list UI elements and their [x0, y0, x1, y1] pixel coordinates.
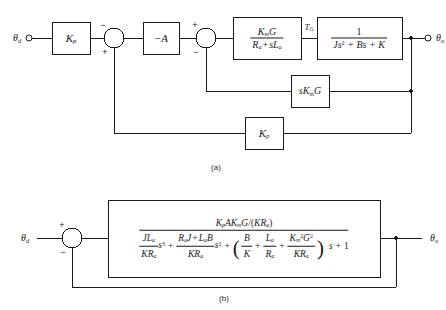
group-op-1: + [254, 242, 261, 252]
sum2-sign-top: + [192, 20, 197, 30]
sum1-sign-top: − [100, 20, 105, 30]
denominator-term-s3: JLa KRa s3 [139, 234, 165, 259]
sumb-sign-top: + [59, 220, 64, 230]
denominator-term-s2: RaJ+LaB KRa s2 [176, 234, 221, 259]
block-label-amplifier: −A [154, 33, 168, 44]
group-term-km2g2-over-kra: Km2G2 KRa [288, 234, 315, 259]
sum2-sign-bottom: − [193, 47, 198, 57]
denominator-constant: 1 [344, 242, 349, 252]
group-term-b-over-k: B K [242, 234, 252, 259]
denominator-term-s1-group: ( B K + La Ra + Km2G2 [233, 234, 324, 259]
denominator-s-factor: s [326, 242, 333, 252]
output-terminal-label-a: θo [436, 33, 444, 43]
caption-b: (b) [219, 294, 229, 303]
input-terminal-label-a: θd [13, 33, 21, 43]
sumb-sign-bottom: − [60, 247, 65, 257]
signal-label-torque: TG [304, 23, 313, 32]
transfer-function-denominator: JLa KRa s3 + RaJ+LaB KRa s2 + [139, 230, 348, 259]
block-label-load-mechanical: 1 Js2 + Bs + K [331, 27, 387, 50]
denominator-op-3: + [335, 242, 342, 252]
output-terminal-label-b: θo [430, 233, 438, 243]
group-term-la-over-ra: La Ra [263, 234, 276, 259]
block-label-position-feedback: Kp [259, 128, 270, 139]
figure-page: θd Kp − + −A + − KmG Ra+sLa TG 1 Js2 + B… [0, 0, 446, 310]
sum1-sign-bottom: + [102, 47, 107, 57]
transfer-function-expression: KpAKmG/(KRa) JLa KRa s3 + [139, 218, 348, 259]
block-label-motor-electrical: KmG Ra+sLa [250, 27, 283, 50]
caption-a: (a) [211, 163, 221, 172]
denominator-op-1: + [167, 242, 174, 252]
block-label-pot-gain: Kp [66, 33, 77, 44]
transfer-function-numerator: KpAKmG/(KRa) [139, 218, 348, 230]
block-label-back-emf-feedback: sKmG [299, 86, 321, 96]
input-terminal-label-b: θd [21, 233, 29, 243]
denominator-op-2: + [223, 242, 230, 252]
block-closed-loop-transfer-function: KpAKmG/(KRa) JLa KRa s3 + [108, 200, 380, 277]
group-op-2: + [278, 242, 285, 252]
